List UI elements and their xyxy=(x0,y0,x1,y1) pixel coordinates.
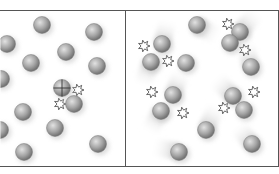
molecule-ball xyxy=(171,144,188,161)
molecule-ball xyxy=(198,122,215,139)
molecule-ball xyxy=(165,87,182,104)
molecule-ball xyxy=(90,136,107,153)
molecule-ball xyxy=(178,55,195,72)
collision-burst-icon xyxy=(73,84,84,96)
collision-burst-icon xyxy=(249,86,260,98)
molecule-ball xyxy=(23,55,40,72)
collision-burst-icon xyxy=(178,107,189,119)
molecule-ball xyxy=(154,36,171,53)
molecule-ball xyxy=(16,144,33,161)
molecule-ball xyxy=(66,96,83,113)
left-panel-balls xyxy=(0,17,107,161)
molecule-ball xyxy=(236,102,253,119)
collision-burst-icon xyxy=(55,98,66,110)
molecule-ball xyxy=(15,104,32,121)
diagram-stage xyxy=(0,0,279,174)
molecule-ball xyxy=(244,136,261,153)
molecule-ball xyxy=(143,54,160,71)
molecule-ball xyxy=(34,17,51,34)
molecule-ball xyxy=(189,17,206,34)
molecule-ball xyxy=(58,44,75,61)
molecule-ball xyxy=(47,120,64,137)
collision-burst-icon xyxy=(139,40,150,52)
molecule-ball xyxy=(243,59,260,76)
particle-diagram xyxy=(0,0,279,174)
molecule-ball xyxy=(225,88,242,105)
molecule-ball xyxy=(89,58,106,75)
molecule-ball xyxy=(86,24,103,41)
molecule-ball xyxy=(153,103,170,120)
molecule-ball xyxy=(0,36,16,53)
molecule-ball xyxy=(222,35,239,52)
collision-burst-icon xyxy=(163,55,174,67)
